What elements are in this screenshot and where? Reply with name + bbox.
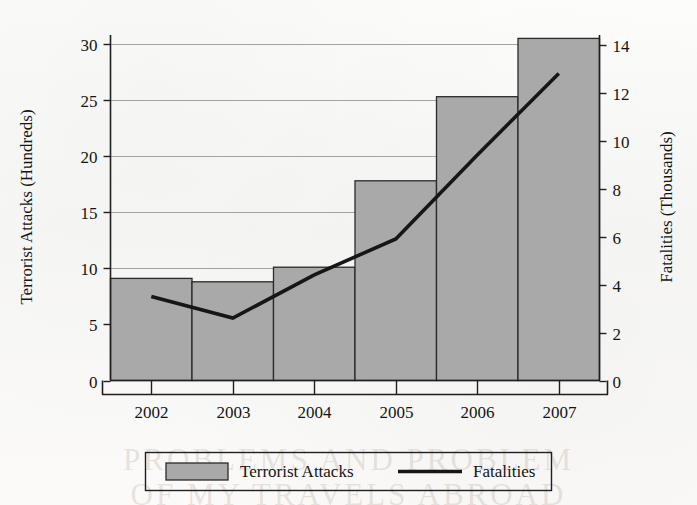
bar-series-group	[111, 38, 600, 380]
right-tick-label-8: 8	[613, 181, 622, 200]
x-axis-label-2006: 2006	[461, 403, 495, 422]
left-axis-ticks-group: 051015202530	[81, 36, 111, 392]
chart-legend: Terrorist Attacks Fatalities	[146, 453, 552, 491]
legend-swatch-terrorist-attacks[interactable]	[166, 463, 228, 480]
left-tick-label-30: 30	[81, 36, 98, 55]
right-tick-label-6: 6	[613, 229, 622, 248]
right-axis-ticks-group: 02468101214	[600, 37, 631, 392]
x-axis-ticks-group	[152, 381, 560, 394]
x-axis-label-2005: 2005	[380, 403, 414, 422]
x-axis-label-2003: 2003	[217, 403, 251, 422]
right-tick-label-4: 4	[613, 277, 622, 296]
x-axis-labels-group: 200220032004200520062007	[135, 403, 578, 422]
right-tick-label-10: 10	[613, 133, 630, 152]
right-tick-label-2: 2	[613, 325, 622, 344]
x-axis-label-2004: 2004	[298, 403, 333, 422]
right-tick-label-12: 12	[613, 85, 630, 104]
bar-2004[interactable]	[274, 267, 356, 380]
legend-label-fatalities[interactable]: Fatalities	[473, 462, 535, 481]
legend-label-terrorist-attacks[interactable]: Terrorist Attacks	[240, 462, 354, 481]
bar-2006[interactable]	[437, 97, 519, 381]
left-axis-title: Terrorist Attacks (Hundreds)	[17, 109, 36, 304]
x-axis-label-2002: 2002	[135, 403, 169, 422]
bar-2003[interactable]	[192, 282, 274, 381]
x-axis-label-2007: 2007	[543, 403, 578, 422]
chart-canvas: 051015202530 02468101214 200220032004200…	[0, 0, 697, 505]
right-tick-label-14: 14	[613, 37, 631, 56]
left-tick-label-10: 10	[81, 260, 98, 279]
bar-2002[interactable]	[111, 278, 193, 380]
dual-axis-chart: 051015202530 02468101214 200220032004200…	[0, 0, 697, 505]
left-tick-label-0: 0	[89, 373, 98, 392]
bar-2007[interactable]	[518, 38, 600, 380]
right-tick-label-0: 0	[613, 373, 622, 392]
right-axis-title: Fatalities (Thousands)	[657, 131, 676, 283]
left-tick-label-5: 5	[89, 316, 98, 335]
left-tick-label-20: 20	[81, 148, 98, 167]
left-tick-label-25: 25	[81, 92, 98, 111]
left-tick-label-15: 15	[81, 204, 98, 223]
